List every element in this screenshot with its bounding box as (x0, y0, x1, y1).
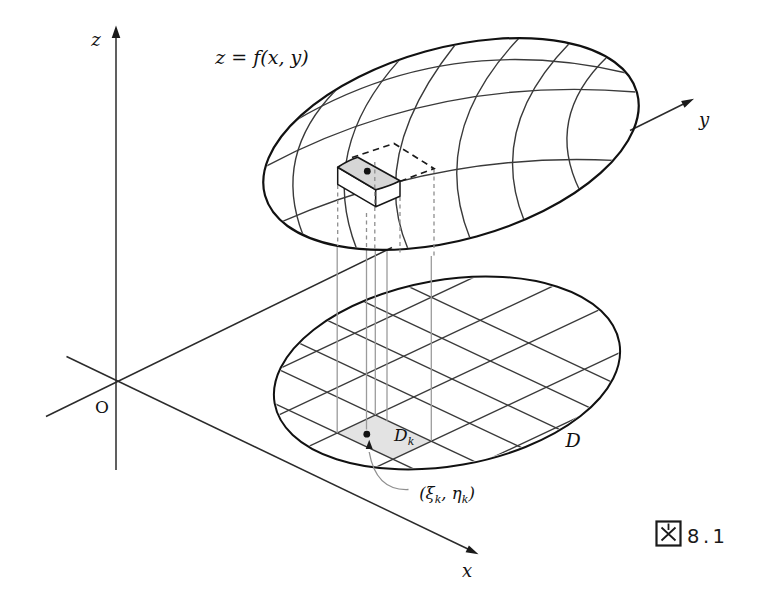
region-D-grid (265, 205, 628, 570)
surface-equation-label: z = f(x, y) (214, 46, 308, 68)
projection-lines (337, 246, 431, 441)
double-integral-diagram: z y x O z = f(x, y) D Dk (ξk, ηk) 8.1 (0, 0, 769, 609)
surface-boundary (239, 0, 662, 288)
surface-point-dot (364, 168, 371, 175)
coordinate-axes (46, 26, 694, 555)
sample-point-dot (363, 431, 370, 438)
origin-label: O (95, 397, 109, 417)
region-D (259, 205, 636, 570)
cell-Dk-fill (337, 415, 431, 459)
z-axis-label: z (90, 29, 101, 50)
region-D-label: D (564, 429, 580, 451)
y-axis-arrowhead-icon (681, 99, 694, 108)
y-axis-label: y (698, 109, 710, 130)
x-axis-line (67, 357, 470, 550)
sample-point-label-part: ) (467, 484, 474, 503)
figure-8-1: z y x O z = f(x, y) D Dk (ξk, ηk) 8.1 (0, 0, 769, 609)
cell-Dk-label-main: D (393, 425, 408, 445)
sample-point-label: (ξk, ηk) (419, 484, 475, 506)
x-axis-label: x (462, 560, 472, 581)
sample-point-label-part: , η (441, 484, 461, 503)
y-axis-line-front-segment (46, 248, 392, 417)
figure-caption-number: 8.1 (687, 525, 729, 548)
region-D-boundary (259, 251, 636, 495)
x-axis-arrowhead-icon (466, 545, 479, 554)
sample-point-label-part: (ξ (419, 484, 435, 503)
z-axis-arrowhead-icon (112, 26, 121, 39)
cell-Dk-label: Dk (393, 425, 415, 448)
zu-kanji-glyph-icon (657, 522, 681, 546)
surface-dome (239, 0, 662, 288)
figure-caption: 8.1 (657, 522, 729, 548)
cell-Dk-label-sub: k (408, 435, 415, 448)
surface-grid (266, 38, 636, 249)
